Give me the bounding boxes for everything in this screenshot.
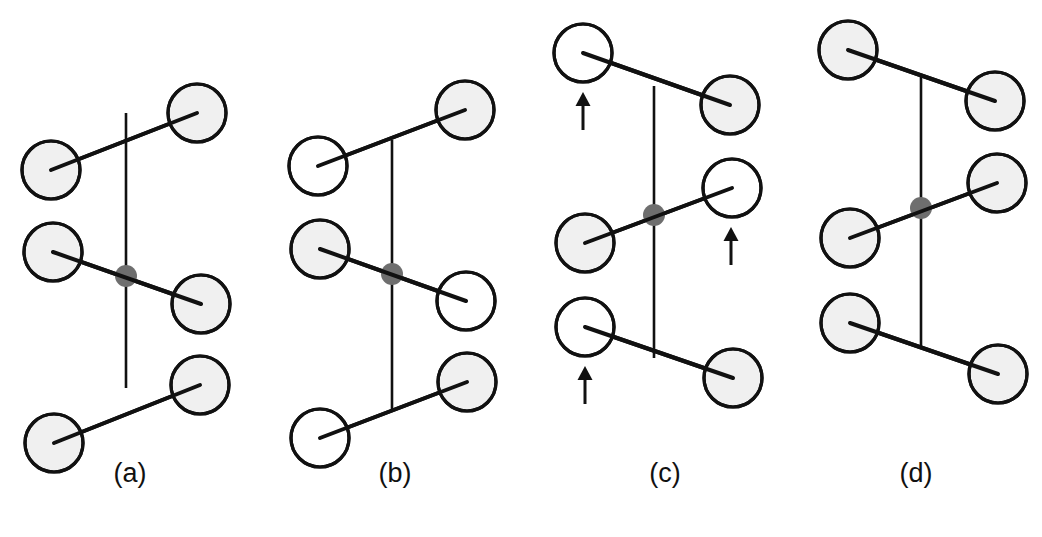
panel-c-arrow-bot-left [578, 366, 593, 404]
panel-a-top-bar-overlay [51, 113, 197, 170]
panel-d-bottom-bar-overlay [850, 323, 998, 374]
panel-c-bottom-bar-overlay [585, 327, 733, 378]
panel-b-label: (b) [260, 458, 530, 489]
panel-c-label: (c) [530, 458, 800, 489]
panel-c-canvas [530, 0, 800, 537]
panel-c-middle-bar-overlay [585, 188, 732, 243]
panel-c: (c) [530, 0, 800, 537]
panel-c-arrow-top-left [576, 92, 591, 130]
arrow-head [724, 227, 739, 241]
panel-b: (b) [260, 0, 530, 537]
panel-d-canvas [790, 0, 1042, 537]
panel-d-label: (d) [790, 458, 1042, 489]
panel-d-middle-bar-overlay [850, 183, 997, 238]
panel-c-top-bar-overlay [583, 53, 730, 105]
panel-b-canvas [260, 0, 530, 537]
panel-a-canvas [0, 0, 260, 537]
panel-a-label: (a) [0, 458, 260, 489]
arrow-head [576, 92, 591, 106]
panel-b-bottom-bar-overlay [320, 382, 467, 438]
panel-c-arrow-mid-right [724, 227, 739, 265]
figure-root: (a)(b)(c)(d) [0, 0, 1042, 537]
panel-a: (a) [0, 0, 260, 537]
panel-d: (d) [790, 0, 1042, 537]
arrow-head [578, 366, 593, 380]
panel-a-bottom-bar-overlay [54, 385, 200, 443]
